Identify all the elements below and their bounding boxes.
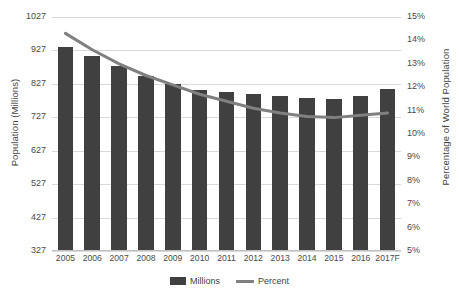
bar-slot [347, 17, 374, 251]
x-axis-label: 2008 [133, 253, 160, 263]
y-axis-left-tick: 327 [12, 245, 46, 255]
bar-slot [106, 17, 133, 251]
y-axis-right-ticks: 15%14%13%12%11%10%9%8%7%6%5% [407, 0, 441, 300]
y-axis-right-tick: 12% [407, 81, 441, 91]
bar [380, 89, 396, 251]
bar-slot [267, 17, 294, 251]
chart-container: Population (Millions) Percentage of Worl… [0, 0, 459, 300]
x-axis-label: 2016 [347, 253, 374, 263]
y-axis-left-tick: 1027 [12, 11, 46, 21]
bar-slot [240, 17, 267, 251]
legend-bar-swatch-icon [170, 277, 186, 285]
bar-series-millions [52, 17, 401, 251]
bar-slot [186, 17, 213, 251]
x-axis-label: 2014 [294, 253, 321, 263]
x-axis-label: 2015 [320, 253, 347, 263]
gridline [52, 251, 401, 252]
bar [272, 96, 288, 251]
x-axis-label: 2010 [186, 253, 213, 263]
x-axis-label: 2009 [159, 253, 186, 263]
y-axis-left-tick: 727 [12, 111, 46, 121]
y-axis-right-tick: 13% [407, 58, 441, 68]
bar [192, 90, 208, 251]
bar-slot [79, 17, 106, 251]
bar [326, 99, 342, 251]
y-axis-left-tick: 827 [12, 78, 46, 88]
y-axis-right-tick: 9% [407, 151, 441, 161]
legend-label: Percent [258, 276, 289, 286]
bar [353, 96, 369, 251]
y-axis-right-tick: 8% [407, 175, 441, 185]
y-axis-left-tick: 527 [12, 178, 46, 188]
bar-slot [294, 17, 321, 251]
y-axis-right-title: Percentage of World Population [440, 66, 451, 186]
y-axis-left-tick: 427 [12, 212, 46, 222]
y-axis-right-tick: 10% [407, 128, 441, 138]
x-axis-label: 2017F [374, 253, 401, 263]
x-axis-label: 2005 [52, 253, 79, 263]
bar [165, 84, 181, 251]
x-axis-label: 2007 [106, 253, 133, 263]
legend-item[interactable]: Millions [170, 276, 220, 286]
y-axis-left-tick: 927 [12, 44, 46, 54]
bar-slot [213, 17, 240, 251]
bar [58, 47, 74, 251]
x-axis-label: 2013 [267, 253, 294, 263]
y-axis-left-tick: 627 [12, 145, 46, 155]
bar [219, 92, 235, 251]
bar [111, 66, 127, 251]
bar-slot [159, 17, 186, 251]
y-axis-right-tick: 6% [407, 222, 441, 232]
y-axis-right-tick: 11% [407, 105, 441, 115]
x-axis-label: 2012 [240, 253, 267, 263]
y-axis-right-tick: 15% [407, 11, 441, 21]
y-axis-left-ticks: 1027927827727627527427327 [12, 0, 46, 300]
legend-line-swatch-icon [236, 280, 254, 283]
bar [246, 94, 262, 251]
bar-slot [133, 17, 160, 251]
x-axis-line [52, 250, 401, 251]
bar [299, 98, 315, 251]
legend-item[interactable]: Percent [236, 276, 289, 286]
bar [84, 56, 100, 251]
bar-slot [374, 17, 401, 251]
legend-label: Millions [190, 276, 220, 286]
bar-slot [320, 17, 347, 251]
y-axis-right-tick: 7% [407, 198, 441, 208]
y-axis-right-tick: 14% [407, 34, 441, 44]
bar [138, 76, 154, 251]
y-axis-right-tick: 5% [407, 245, 441, 255]
x-axis-label: 2006 [79, 253, 106, 263]
bar-slot [52, 17, 79, 251]
chart-legend: MillionsPercent [0, 276, 459, 286]
x-axis-labels: 2005200620072008200920102011201220132014… [52, 253, 401, 263]
plot-area [52, 17, 401, 251]
x-axis-label: 2011 [213, 253, 240, 263]
